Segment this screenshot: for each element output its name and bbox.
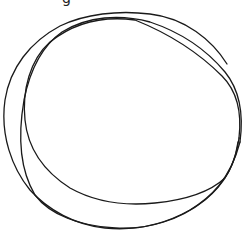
cropped-text-fragment: g bbox=[62, 0, 71, 5]
scribble-loop-outer bbox=[4, 13, 240, 229]
scribble-loop-middle bbox=[21, 17, 241, 228]
scribble-loop-inner bbox=[24, 19, 239, 204]
scribbled-circle bbox=[0, 0, 247, 233]
drawing-canvas: g bbox=[0, 0, 247, 233]
